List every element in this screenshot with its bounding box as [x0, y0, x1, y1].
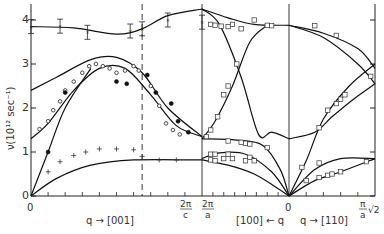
square-point — [219, 24, 223, 28]
square-point — [252, 159, 256, 163]
square-point — [226, 139, 230, 143]
filled-circle-point — [125, 82, 129, 86]
x-tick-origin: 0 — [27, 202, 33, 213]
square-point — [213, 152, 217, 156]
square-point — [209, 158, 213, 162]
plus-point — [46, 169, 51, 174]
open-circle-point — [58, 100, 62, 104]
series-curve-rising-b-110 — [289, 84, 375, 139]
filled-circle-point — [154, 91, 158, 95]
square-point — [338, 170, 342, 174]
errorbar-point: × — [199, 15, 205, 29]
square-point — [269, 24, 273, 28]
plus-point — [140, 154, 145, 159]
square-point — [239, 140, 243, 144]
x-tick-center: 0 — [285, 202, 291, 213]
square-point — [226, 24, 230, 28]
plus-point — [97, 146, 102, 151]
y-tick-label: 1 — [22, 145, 29, 158]
plus-point — [174, 157, 179, 162]
x-tick-zone-c-numerator: 2π — [180, 199, 192, 209]
plus-point — [131, 147, 136, 152]
filled-circle-point — [176, 119, 180, 123]
y-tick-label: 0 — [22, 189, 29, 202]
filled-circle-point — [186, 130, 190, 134]
errorbar-point: × — [127, 24, 133, 38]
x-axis-label-001: q → [001] — [86, 215, 134, 226]
x-marker: × — [85, 29, 89, 35]
open-circle-point — [164, 122, 168, 126]
filled-circle-point — [145, 73, 149, 77]
x-marker: × — [58, 23, 62, 29]
filled-circle-point — [46, 150, 50, 154]
square-point — [300, 165, 304, 169]
open-circle-point — [38, 127, 42, 131]
plus-point — [58, 159, 63, 164]
open-circle-point — [157, 104, 161, 108]
y-tick-label: 2 — [22, 101, 29, 114]
square-point — [230, 22, 234, 26]
square-point — [215, 115, 219, 119]
square-point — [252, 18, 256, 22]
open-circle-point — [171, 128, 175, 132]
open-circle-point — [87, 64, 91, 68]
series-curve-cross-a-100 — [202, 9, 289, 139]
open-circle-point — [101, 64, 105, 68]
plus-point — [157, 157, 162, 162]
square-point — [343, 93, 347, 97]
series-curve-top-110 — [289, 25, 375, 68]
x-tick-zone-a-numerator: 2π — [202, 199, 214, 209]
square-point — [317, 161, 321, 165]
series-curve-cross-b-100 — [202, 25, 267, 139]
square-point — [235, 62, 239, 66]
errorbar-point: × — [84, 25, 90, 39]
filled-circle-point — [115, 80, 119, 84]
errorbar-point: × — [139, 22, 145, 36]
x-axis-label-100: [100] ← q — [236, 215, 284, 226]
y-tick-label: 4 — [22, 13, 29, 26]
errorbar-point: × — [57, 19, 63, 33]
square-point — [317, 126, 321, 130]
series-curve-top-001 — [31, 9, 202, 34]
square-point — [213, 159, 217, 163]
open-circle-point — [72, 80, 76, 84]
square-point — [248, 155, 252, 159]
y-axis-label: ν(10¹² sec⁻¹) — [5, 86, 16, 150]
square-point — [326, 173, 330, 177]
square-point — [213, 23, 217, 27]
x-marker: × — [29, 24, 33, 30]
filled-circle-point — [63, 91, 67, 95]
x-marker: × — [200, 19, 204, 25]
square-point — [222, 156, 226, 160]
square-point — [248, 142, 252, 146]
square-point — [226, 84, 230, 88]
x-tick-zone-a-denominator: a — [205, 210, 211, 220]
x-tick-end-suffix: √2 — [368, 205, 379, 215]
open-circle-point — [137, 69, 141, 73]
open-circle-point — [81, 71, 85, 75]
square-point — [265, 145, 269, 149]
series-curve-upper-optic-001 — [31, 56, 202, 136]
open-circle-point — [108, 67, 112, 71]
square-point — [330, 172, 334, 176]
square-point — [313, 24, 317, 28]
filled-circle-point — [169, 102, 173, 106]
open-circle-point — [123, 69, 127, 73]
x-marker: × — [140, 26, 144, 32]
x-tick-end-numerator: π — [360, 199, 366, 209]
square-point — [209, 128, 213, 132]
dispersion-chart: ××××××× 4 3 2 1 0 ν(10¹² sec⁻¹) 0 2π c 2… — [0, 0, 384, 234]
square-point — [243, 159, 247, 163]
series-curve-low-100 — [202, 160, 289, 196]
series-curve-acoustic-b-110 — [289, 159, 375, 196]
square-point — [204, 134, 208, 138]
square-point — [209, 152, 213, 156]
square-point — [334, 33, 338, 37]
open-circle-point — [149, 84, 153, 88]
square-point — [230, 156, 234, 160]
open-circle-point — [178, 133, 182, 137]
square-point — [369, 74, 373, 78]
x-axis-label-110: q → [110] — [300, 215, 348, 226]
square-point — [243, 141, 247, 145]
open-circle-point — [115, 71, 119, 75]
